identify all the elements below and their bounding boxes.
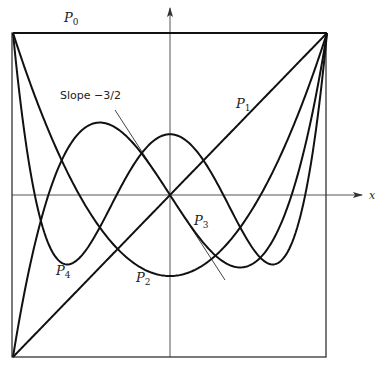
x-axis-label: x xyxy=(369,189,376,202)
legendre-plot: P0 P1 P2 P3 P4 x Slope −3/2 xyxy=(0,0,386,367)
label-p2: P2 xyxy=(135,270,150,287)
label-p4: P4 xyxy=(55,263,71,280)
label-p0: P0 xyxy=(63,10,79,27)
label-p1: P1 xyxy=(235,96,250,113)
label-p3: P3 xyxy=(193,213,209,230)
slope-annotation: Slope −3/2 xyxy=(60,89,121,102)
